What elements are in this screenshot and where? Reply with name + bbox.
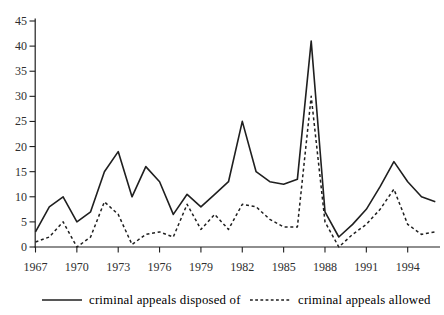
x-tick-label: 1985	[272, 260, 296, 274]
y-tick-label: 20	[15, 140, 27, 154]
series-line-allowed	[36, 96, 436, 247]
legend-label-allowed: criminal appeals allowed	[298, 293, 431, 308]
solid-line-sample-icon	[42, 297, 82, 303]
dashed-line-sample-icon	[250, 297, 291, 303]
y-tick-label: 10	[15, 190, 27, 204]
y-tick-label: 35	[15, 64, 27, 78]
line-chart-plot-area: 0510152025303540451967197019731976197919…	[0, 0, 444, 288]
legend-item-allowed: criminal appeals allowed	[250, 289, 431, 311]
x-tick-label: 1970	[65, 260, 89, 274]
x-tick-label: 1994	[396, 260, 420, 274]
x-tick-label: 1991	[354, 260, 378, 274]
y-tick-label: 15	[15, 165, 27, 179]
x-tick-label: 1979	[189, 260, 213, 274]
x-tick-label: 1976	[148, 260, 172, 274]
y-tick-label: 0	[21, 240, 27, 254]
y-tick-label: 25	[15, 114, 27, 128]
criminal-appeals-line-chart-figure: 0510152025303540451967197019731976197919…	[0, 0, 444, 315]
x-tick-label: 1982	[230, 260, 254, 274]
legend-item-disposed: criminal appeals disposed of	[42, 289, 241, 311]
y-tick-label: 30	[15, 89, 27, 103]
y-tick-label: 45	[15, 14, 27, 28]
y-tick-label: 5	[21, 215, 27, 229]
series-line-disposed	[36, 41, 436, 237]
x-tick-label: 1988	[313, 260, 337, 274]
legend-label-disposed: criminal appeals disposed of	[89, 293, 241, 308]
y-tick-label: 40	[15, 39, 27, 53]
x-tick-label: 1973	[106, 260, 130, 274]
x-tick-label: 1967	[24, 260, 48, 274]
chart-legend: criminal appeals disposed of criminal ap…	[0, 289, 444, 311]
